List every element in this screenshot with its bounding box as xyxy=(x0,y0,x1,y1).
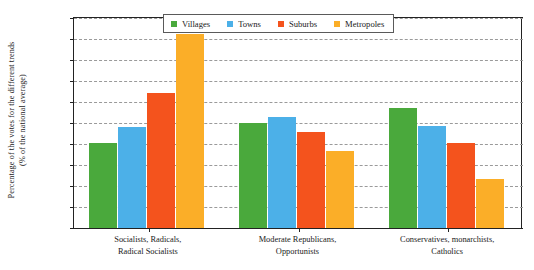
legend-label: Villages xyxy=(182,19,210,29)
x-axis-tick-mark xyxy=(149,228,150,232)
legend-label: Suburbs xyxy=(289,19,317,29)
bar-suburbs[interactable] xyxy=(297,132,325,228)
bars-layer xyxy=(74,18,523,228)
bar-towns[interactable] xyxy=(268,117,296,228)
legend-item-metropoles[interactable]: Metropoles xyxy=(334,19,384,29)
bar-metropoles[interactable] xyxy=(326,151,354,228)
y-axis-tick-mark xyxy=(70,228,74,229)
x-axis-category-label-line: Radical Socialists xyxy=(68,246,228,258)
legend-swatch-icon xyxy=(334,21,340,27)
x-axis-category-label-line: Catholics xyxy=(367,246,527,258)
x-axis-tick-mark xyxy=(299,228,300,232)
legend-item-suburbs[interactable]: Suburbs xyxy=(278,19,317,29)
bar-suburbs[interactable] xyxy=(147,93,175,228)
y-axis-title: Percentage of the votes for the differen… xyxy=(0,0,34,240)
bar-suburbs[interactable] xyxy=(447,143,475,228)
legend-item-villages[interactable]: Villages xyxy=(171,19,210,29)
chart-legend: VillagesTownsSuburbsMetropoles xyxy=(163,14,394,33)
x-axis-category-label-line: Socialists, Radicals, xyxy=(68,234,228,246)
bar-towns[interactable] xyxy=(418,126,446,228)
legend-swatch-icon xyxy=(227,21,233,27)
x-axis-category-label: Conservatives, monarchists,Catholics xyxy=(367,234,527,257)
legend-label: Metropoles xyxy=(345,19,384,29)
bar-metropoles[interactable] xyxy=(476,179,504,228)
bar-villages[interactable] xyxy=(239,123,267,228)
y-axis-title-line-2: (% of the national average) xyxy=(17,42,28,199)
x-axis-category-label-line: Conservatives, monarchists, xyxy=(367,234,527,246)
x-axis-category-label-line: Moderate Republicans, xyxy=(218,234,378,246)
bar-group xyxy=(239,18,358,228)
bar-villages[interactable] xyxy=(89,143,117,228)
legend-swatch-icon xyxy=(278,21,284,27)
x-axis-category-label: Socialists, Radicals,Radical Socialists xyxy=(68,234,228,257)
legend-item-towns[interactable]: Towns xyxy=(227,19,261,29)
legend-swatch-icon xyxy=(171,21,177,27)
x-axis-tick-mark xyxy=(448,228,449,232)
bar-group xyxy=(389,18,508,228)
bar-towns[interactable] xyxy=(118,127,146,228)
x-axis-category-label: Moderate Republicans,Opportunists xyxy=(218,234,378,257)
bar-villages[interactable] xyxy=(389,108,417,228)
legend-label: Towns xyxy=(238,19,261,29)
bar-metropoles[interactable] xyxy=(176,34,204,228)
y-axis-title-line-1: Percentage of the votes for the differen… xyxy=(7,42,16,199)
bar-chart: Percentage of the votes for the differen… xyxy=(0,0,534,270)
x-axis-category-label-line: Opportunists xyxy=(218,246,378,258)
plot-area: 0%20%40%60%80%100%120%140%160%180%200% xyxy=(73,18,523,229)
bar-group xyxy=(89,18,208,228)
x-axis-labels: Socialists, Radicals,Radical SocialistsM… xyxy=(73,234,523,268)
